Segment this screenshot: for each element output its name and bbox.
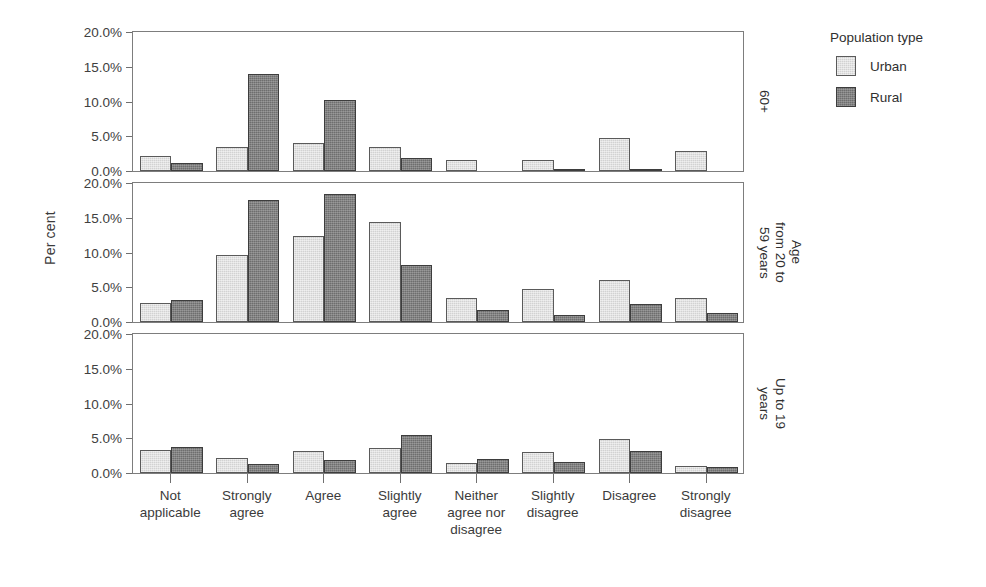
bar-rural[interactable] <box>324 460 355 473</box>
facet-panel-age-20-to-59 <box>132 182 744 323</box>
bar-urban[interactable] <box>599 439 630 473</box>
facet-panel-60plus <box>132 31 744 172</box>
y-axis-ticks: 0.0%5.0%10.0%15.0%20.0% <box>56 31 132 172</box>
bar-rural[interactable] <box>401 435 432 473</box>
bar-urban[interactable] <box>293 143 324 171</box>
bar-urban[interactable] <box>675 151 706 171</box>
x-tick-mark <box>706 474 707 483</box>
bar-urban[interactable] <box>446 463 477 473</box>
bar-urban[interactable] <box>599 138 630 171</box>
x-tick-mark <box>629 474 630 483</box>
bar-urban[interactable] <box>675 466 706 473</box>
x-tick-mark <box>553 474 554 483</box>
legend-item-rural[interactable]: Rural <box>830 87 980 107</box>
bar-urban[interactable] <box>140 450 171 473</box>
bar-rural[interactable] <box>477 459 508 473</box>
bar-rural[interactable] <box>324 100 355 171</box>
bar-urban[interactable] <box>369 222 400 322</box>
x-tick-mark <box>170 474 171 483</box>
y-tick-mark <box>126 369 132 370</box>
y-tick-mark <box>126 183 132 184</box>
y-tick-label: 5.0% <box>91 280 122 295</box>
bar-urban[interactable] <box>522 160 553 171</box>
bar-rural[interactable] <box>171 163 202 171</box>
y-tick-mark <box>126 473 132 474</box>
facet-panel-up-to-19 <box>132 333 744 474</box>
bar-urban[interactable] <box>369 147 400 171</box>
plot-area <box>133 32 743 171</box>
y-tick-mark <box>126 404 132 405</box>
x-tick-mark <box>400 474 401 483</box>
bar-rural[interactable] <box>401 158 432 171</box>
x-tick-label: Strongly disagree <box>646 487 765 521</box>
y-tick-label: 10.0% <box>84 94 122 109</box>
bar-urban[interactable] <box>446 160 477 171</box>
y-axis-ticks: 0.0%5.0%10.0%15.0%20.0% <box>56 333 132 474</box>
legend-item-urban[interactable]: Urban <box>830 56 980 76</box>
bar-rural[interactable] <box>477 310 508 323</box>
bar-urban[interactable] <box>522 289 553 322</box>
legend: Population type Urban Rural <box>830 30 980 118</box>
bar-urban[interactable] <box>140 156 171 171</box>
bar-urban[interactable] <box>675 298 706 322</box>
bar-rural[interactable] <box>554 315 585 322</box>
bar-urban[interactable] <box>293 451 324 473</box>
bar-rural[interactable] <box>171 447 202 473</box>
bar-urban[interactable] <box>140 303 171 322</box>
y-tick-mark <box>126 218 132 219</box>
bar-rural[interactable] <box>324 194 355 322</box>
bar-rural[interactable] <box>707 467 738 473</box>
bar-urban[interactable] <box>293 236 324 322</box>
y-tick-label: 5.0% <box>91 431 122 446</box>
bar-urban[interactable] <box>369 448 400 473</box>
bar-urban[interactable] <box>216 147 247 171</box>
bar-rural[interactable] <box>554 462 585 473</box>
bar-urban[interactable] <box>522 452 553 473</box>
y-axis-ticks: 0.0%5.0%10.0%15.0%20.0% <box>56 182 132 323</box>
x-tick-mark <box>247 474 248 483</box>
bar-rural[interactable] <box>630 304 661 322</box>
y-tick-label: 0.0% <box>91 466 122 481</box>
legend-label-rural: Rural <box>870 90 902 105</box>
y-tick-mark <box>126 253 132 254</box>
y-tick-mark <box>126 171 132 172</box>
strip-label-60plus: 60+ <box>756 31 772 172</box>
bar-urban[interactable] <box>216 255 247 322</box>
bar-rural[interactable] <box>248 200 279 322</box>
bar-urban[interactable] <box>216 458 247 473</box>
bar-urban[interactable] <box>599 280 630 322</box>
y-tick-mark <box>126 287 132 288</box>
y-tick-label: 20.0% <box>84 327 122 342</box>
bar-rural[interactable] <box>248 464 279 473</box>
chart-figure: Per cent Not applicableStrongly agreeAgr… <box>0 0 986 587</box>
bar-rural[interactable] <box>171 300 202 322</box>
y-tick-mark <box>126 136 132 137</box>
y-tick-label: 20.0% <box>84 25 122 40</box>
y-tick-label: 20.0% <box>84 176 122 191</box>
y-tick-mark <box>126 438 132 439</box>
bar-rural[interactable] <box>630 169 661 171</box>
y-tick-label: 15.0% <box>84 210 122 225</box>
plot-area <box>133 183 743 322</box>
legend-title: Population type <box>830 30 980 45</box>
x-tick-mark <box>323 474 324 483</box>
legend-swatch-urban-icon <box>836 56 856 76</box>
bar-rural[interactable] <box>248 74 279 171</box>
y-tick-label: 15.0% <box>84 361 122 376</box>
y-tick-mark <box>126 67 132 68</box>
y-tick-mark <box>126 102 132 103</box>
y-tick-mark <box>126 334 132 335</box>
y-tick-label: 10.0% <box>84 245 122 260</box>
y-tick-mark <box>126 32 132 33</box>
bar-rural[interactable] <box>707 313 738 322</box>
plot-area <box>133 334 743 473</box>
bar-rural[interactable] <box>554 169 585 171</box>
bar-rural[interactable] <box>630 451 661 473</box>
y-tick-label: 10.0% <box>84 396 122 411</box>
bar-rural[interactable] <box>401 265 432 322</box>
y-tick-mark <box>126 322 132 323</box>
x-tick-mark <box>476 474 477 483</box>
y-tick-label: 5.0% <box>91 129 122 144</box>
strip-label-age-20-to-59: Age from 20 to 59 years <box>756 182 804 323</box>
bar-urban[interactable] <box>446 298 477 322</box>
